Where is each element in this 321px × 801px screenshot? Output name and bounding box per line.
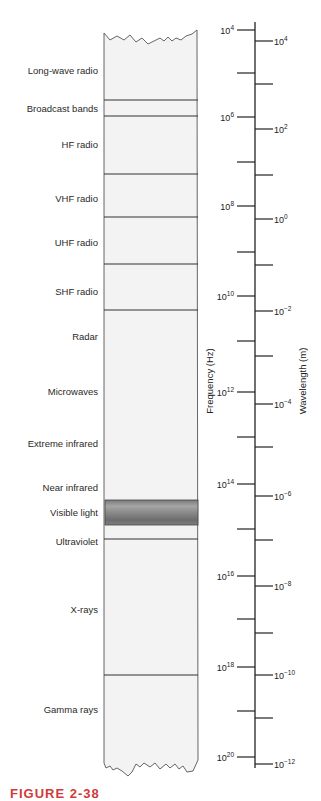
band-label: Radar [72, 331, 98, 342]
tick-exponent: 4 [284, 35, 288, 42]
tick-base: 10 [274, 125, 284, 135]
tick-exponent: −8 [284, 580, 291, 587]
band-label: Ultraviolet [56, 536, 98, 547]
wavelength-axis-title: Wavelength (m) [297, 348, 308, 415]
frequency-ticks [237, 30, 255, 757]
tick-base: 10 [274, 760, 284, 770]
tick-label: 10−12 [274, 758, 295, 770]
band-label: X-rays [71, 604, 98, 615]
tick-base: 10 [220, 26, 230, 36]
band-label: UHF radio [55, 237, 98, 248]
tick-exponent: −10 [284, 669, 295, 676]
tick-label: 10−8 [274, 580, 291, 592]
figure-caption: FIGURE 2-38 [10, 786, 100, 801]
spectrum-column [104, 30, 198, 776]
band-label: Gamma rays [44, 704, 98, 715]
tick-base: 10 [220, 202, 230, 212]
band-label: Broadcast bands [27, 103, 98, 114]
tick-label: 1018 [217, 661, 234, 673]
tick-exponent: 18 [227, 661, 234, 668]
tick-exponent: 12 [227, 386, 234, 393]
tick-base: 10 [274, 582, 284, 592]
tick-base: 10 [274, 492, 284, 502]
tick-base: 10 [274, 37, 284, 47]
tick-exponent: −6 [284, 490, 291, 497]
tick-exponent: −4 [284, 398, 291, 405]
tick-exponent: −12 [284, 758, 295, 765]
tick-label: 1016 [217, 570, 234, 582]
band-label: VHF radio [55, 193, 98, 204]
tick-base: 10 [217, 753, 227, 763]
tick-exponent: 4 [230, 24, 234, 31]
tick-base: 10 [217, 663, 227, 673]
tick-label: 102 [274, 123, 288, 135]
band-label: Long-wave radio [28, 65, 98, 76]
band-label: Near infrared [43, 482, 98, 493]
tick-label: 1014 [217, 478, 234, 490]
tick-exponent: −2 [284, 305, 291, 312]
tick-label: 10−2 [274, 305, 291, 317]
tick-base: 10 [220, 113, 230, 123]
wavelength-ticks [255, 41, 273, 764]
tick-exponent: 0 [284, 213, 288, 220]
tick-base: 10 [217, 480, 227, 490]
tick-label: 104 [220, 24, 234, 36]
tick-label: 10−4 [274, 398, 291, 410]
tick-label: 1010 [217, 290, 234, 302]
tick-exponent: 20 [227, 751, 234, 758]
band-label: Visible light [50, 507, 98, 518]
tick-label: 10−6 [274, 490, 291, 502]
tick-base: 10 [274, 307, 284, 317]
band-label: Extreme infrared [28, 438, 98, 449]
tick-label: 100 [274, 213, 288, 225]
tick-exponent: 16 [227, 570, 234, 577]
tick-base: 10 [274, 671, 284, 681]
tick-label: 1012 [217, 386, 234, 398]
band-label: Microwaves [48, 386, 98, 397]
band-label: SHF radio [55, 286, 98, 297]
frequency-axis-title: Frequency (Hz) [204, 348, 215, 413]
tick-base: 10 [217, 388, 227, 398]
tick-label: 10−10 [274, 669, 295, 681]
tick-label: 108 [220, 200, 234, 212]
tick-base: 10 [274, 215, 284, 225]
tick-base: 10 [217, 572, 227, 582]
band-label: HF radio [62, 139, 98, 150]
tick-label: 104 [274, 35, 288, 47]
tick-label: 106 [220, 111, 234, 123]
tick-exponent: 6 [230, 111, 234, 118]
tick-base: 10 [217, 292, 227, 302]
tick-exponent: 10 [227, 290, 234, 297]
tick-exponent: 8 [230, 200, 234, 207]
tick-exponent: 2 [284, 123, 288, 130]
tick-base: 10 [274, 400, 284, 410]
visible-light-band [105, 500, 198, 525]
tick-exponent: 14 [227, 478, 234, 485]
tick-label: 1020 [217, 751, 234, 763]
